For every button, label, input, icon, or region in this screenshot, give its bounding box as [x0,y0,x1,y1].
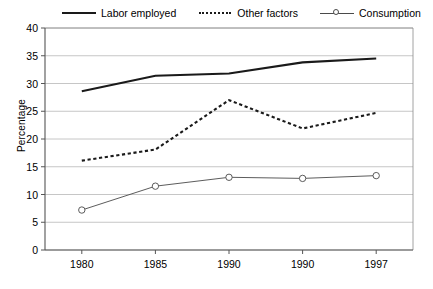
y-tick-label: 20 [12,134,38,144]
plot-area [0,0,433,289]
y-tick-label: 25 [12,106,38,116]
line-chart: Labor employed Other factors Consumption… [0,0,433,289]
y-tick-label: 30 [12,79,38,89]
y-tick-label: 5 [12,217,38,227]
x-tick-label: 1980 [57,259,107,270]
y-tick-label: 10 [12,190,38,200]
y-tick-label: 35 [12,51,38,61]
x-tick-label: 1990 [204,259,254,270]
y-tick-label: 15 [12,162,38,172]
x-tick-label: 1985 [130,259,180,270]
x-tick-label: 1990 [278,259,328,270]
gridlines [45,28,413,250]
y-tick-label: 40 [12,23,38,33]
x-tick-label: 1997 [351,259,401,270]
data-series [79,59,380,214]
y-tick-label: 0 [12,245,38,255]
